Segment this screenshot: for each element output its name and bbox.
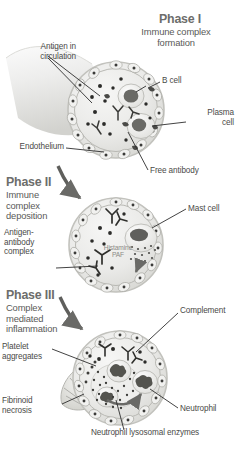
plasma-cell-nucleus (132, 119, 146, 132)
label-endothelium: Endothelium (2, 142, 64, 152)
mast-cell-nucleus (130, 229, 148, 241)
label-plasma-cell: Plasma cell (176, 108, 234, 127)
label-antigen-in-circulation: Antigen in circulation (2, 42, 76, 61)
label-complement: Complement (180, 306, 236, 316)
phase-1-subtitle: Immune complex formation (118, 27, 234, 48)
phase-3-title: Phase III (6, 288, 54, 302)
phase-2-title: Phase II (6, 175, 51, 189)
label-antigen-antibody-complex: Antigen- antibody complex (4, 228, 58, 257)
phase-3-subtitle: Complex mediated inflammation (6, 303, 78, 335)
label-platelet-aggregates: Platelet aggregates (2, 342, 54, 361)
immune-complex-disease-diagram (0, 0, 236, 450)
label-mast-cell: Mast cell (188, 204, 236, 214)
leader-complement (136, 313, 178, 352)
label-neutrophil: Neutrophil (180, 404, 236, 414)
neutrophil-2 (133, 371, 158, 394)
label-b-cell: B cell (162, 76, 222, 86)
phase-1-title: Phase I (128, 12, 232, 26)
label-neutrophil-lysosomal-enzymes: Neutrophil lysosomal enzymes (70, 428, 220, 438)
neutrophil-1 (107, 360, 131, 382)
inner-note-histamine-paf: Histamine PAF (94, 244, 142, 259)
phase-2-subtitle: Immune complex deposition (6, 190, 70, 222)
label-fibrinoid-necrosis: Fibrinoid necrosis (2, 396, 54, 415)
leader-mast-cell (152, 209, 186, 228)
label-free-antibody: Free antibody (150, 166, 230, 176)
